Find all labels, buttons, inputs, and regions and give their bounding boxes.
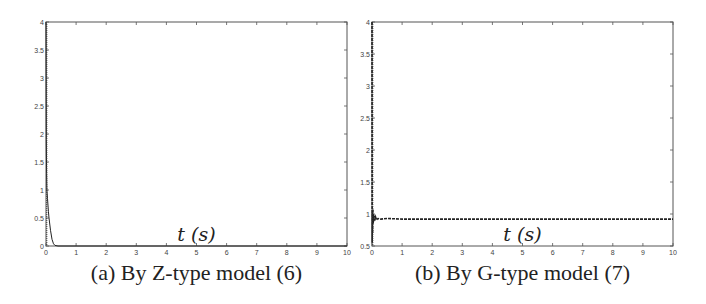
x-tick-label: 8 (285, 249, 289, 256)
y-tick-label: 4 (40, 19, 44, 26)
axes-box (46, 22, 347, 246)
x-tick-label: 0 (44, 249, 48, 256)
y-tick-label: 2 (366, 147, 370, 154)
x-tick-label: 0 (370, 249, 374, 256)
y-tick-label: 1.5 (34, 159, 44, 166)
y-tick-label: 3 (40, 75, 44, 82)
x-tick-label: 5 (521, 249, 525, 256)
chart-canvas: 01234567891000.511.522.533.54t (s) 01234… (0, 0, 706, 304)
data-line (46, 22, 347, 246)
axes-box (372, 22, 673, 246)
y-tick-label: 1.5 (360, 179, 370, 186)
y-tick-label: 0.5 (34, 215, 44, 222)
y-tick-label: 2.5 (360, 115, 370, 122)
data-line (372, 22, 673, 243)
x-tick-label: 9 (315, 249, 319, 256)
caption-a: (a) By Z-type model (6) (46, 260, 347, 286)
x-tick-label: 9 (641, 249, 645, 256)
y-tick-label: 1 (366, 211, 370, 218)
y-tick-label: 3.5 (34, 47, 44, 54)
x-tick-label: 7 (255, 249, 259, 256)
y-tick-label: 2.5 (34, 103, 44, 110)
x-tick-label: 10 (669, 249, 677, 256)
x-axis-label: t (s) (503, 223, 541, 245)
x-tick-label: 4 (490, 249, 494, 256)
x-tick-label: 1 (74, 249, 78, 256)
x-tick-label: 2 (430, 249, 434, 256)
x-tick-label: 8 (611, 249, 615, 256)
y-tick-label: 3 (366, 83, 370, 90)
x-tick-label: 3 (460, 249, 464, 256)
y-tick-label: 4 (366, 19, 370, 26)
x-tick-label: 10 (343, 249, 351, 256)
caption-b: (b) By G-type model (7) (372, 260, 673, 286)
y-tick-label: 0 (40, 243, 44, 250)
x-tick-label: 7 (581, 249, 585, 256)
x-tick-label: 2 (104, 249, 108, 256)
y-tick-label: 1 (40, 187, 44, 194)
x-tick-label: 6 (225, 249, 229, 256)
panel-a-plot: 01234567891000.511.522.533.54t (s) (34, 19, 351, 257)
y-tick-label: 0.5 (360, 243, 370, 250)
x-tick-label: 1 (400, 249, 404, 256)
x-tick-label: 3 (134, 249, 138, 256)
x-tick-label: 6 (551, 249, 555, 256)
y-tick-label: 3.5 (360, 51, 370, 58)
x-tick-label: 5 (195, 249, 199, 256)
x-tick-label: 4 (164, 249, 168, 256)
figure: 01234567891000.511.522.533.54t (s) 01234… (0, 0, 706, 304)
panel-b-plot: 0123456789100.511.522.533.54t (s) (360, 19, 677, 257)
y-tick-label: 2 (40, 131, 44, 138)
x-axis-label: t (s) (177, 223, 215, 245)
